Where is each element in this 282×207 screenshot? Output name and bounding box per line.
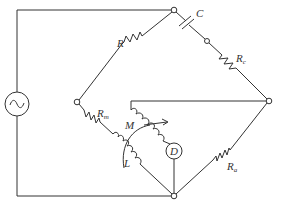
label-rm: Rm bbox=[96, 107, 109, 121]
wire-source-bottom bbox=[17, 116, 171, 196]
node-left bbox=[74, 99, 80, 105]
bridge-circuit-diagram: R C Rc Rm L M D Ra bbox=[0, 0, 282, 207]
wire-secondary bbox=[131, 101, 267, 110]
wire-c-1 bbox=[176, 12, 186, 21]
label-r: R bbox=[116, 37, 124, 49]
node-c bbox=[205, 39, 210, 44]
capacitor-plate-1 bbox=[179, 16, 191, 26]
node-bottom bbox=[171, 193, 177, 199]
wire-r bbox=[79, 12, 172, 100]
label-ra: Ra bbox=[226, 160, 238, 174]
label-m: M bbox=[124, 119, 135, 131]
label-c: C bbox=[196, 7, 204, 19]
wire-ra bbox=[176, 103, 267, 194]
secondary-coil bbox=[131, 108, 170, 144]
wire-c-2 bbox=[189, 25, 205, 39]
sine-wave-icon bbox=[10, 100, 24, 107]
label-rc: Rc bbox=[235, 52, 247, 66]
label-d: D bbox=[169, 145, 178, 157]
node-right bbox=[266, 98, 272, 104]
node-top bbox=[171, 7, 177, 13]
